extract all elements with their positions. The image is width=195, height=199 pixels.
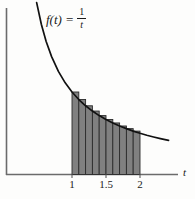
riemann-sum-figure: f(t) = 1 t 11.52 t	[0, 0, 195, 199]
fraction-numerator: 1	[77, 7, 86, 18]
function-label-prefix: f(t)	[46, 12, 62, 28]
riemann-rectangle	[79, 100, 86, 175]
riemann-rectangle	[133, 131, 140, 174]
riemann-rectangle	[72, 92, 79, 175]
x-tick-label: 1.5	[99, 178, 113, 190]
plot-canvas	[0, 0, 195, 199]
x-tick-label: 2	[137, 178, 143, 190]
riemann-rectangle	[86, 106, 93, 175]
riemann-rectangles-group	[72, 92, 140, 175]
riemann-rectangle	[120, 126, 127, 175]
fraction-denominator: t	[78, 19, 85, 30]
function-label-equals: =	[66, 12, 73, 28]
riemann-rectangle	[126, 129, 133, 175]
riemann-rectangle	[99, 116, 106, 175]
riemann-rectangle	[106, 119, 113, 174]
function-label: f(t) = 1 t	[46, 8, 86, 31]
function-label-fraction: 1 t	[77, 7, 86, 30]
x-axis-label: t	[183, 166, 186, 178]
riemann-rectangle	[113, 123, 120, 175]
riemann-rectangle	[92, 111, 99, 174]
x-tick-label: 1	[69, 178, 75, 190]
